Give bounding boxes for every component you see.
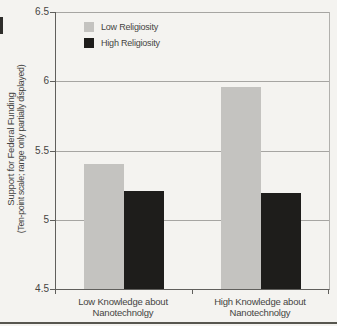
x-category-label-0: Low Knowledge aboutNanotechnolgy xyxy=(48,296,198,318)
bottom-rule xyxy=(0,322,337,324)
x-tick-mark-1 xyxy=(192,290,193,294)
gridline-5-5 xyxy=(56,151,329,152)
y-tick-label-5: 5 xyxy=(3,214,49,226)
x-category-label-line: High Knowledge about xyxy=(185,296,335,307)
legend-row-high-religiosity: High Religiosity xyxy=(84,38,160,48)
y-tick-label-4-5: 4.5 xyxy=(3,283,49,295)
x-category-label-line: Low Knowledge about xyxy=(48,296,198,307)
gridline-6 xyxy=(56,81,329,82)
x-category-label-1: High Knowledge aboutNanotechnolgy xyxy=(185,296,335,318)
legend-swatch-high-religiosity xyxy=(84,38,94,48)
legend: Low ReligiosityHigh Religiosity xyxy=(84,22,160,54)
y-tick-label-5-5: 5.5 xyxy=(3,145,49,157)
x-tick-mark-0 xyxy=(55,290,56,294)
bar-high-religiosity-1 xyxy=(261,193,301,289)
gridline-6-5 xyxy=(56,12,329,13)
x-category-label-line: Nanotechnolgy xyxy=(185,307,335,318)
x-category-label-line: Nanotechnolgy xyxy=(48,307,198,318)
scan-artifact-mark xyxy=(0,17,3,34)
legend-label-low-religiosity: Low Religiosity xyxy=(101,22,158,32)
x-tick-mark-2 xyxy=(328,290,329,294)
legend-row-low-religiosity: Low Religiosity xyxy=(84,22,160,32)
bar-low-religiosity-0 xyxy=(84,164,124,289)
bar-low-religiosity-1 xyxy=(221,87,261,289)
bar-chart-figure: Support for Federal Funding (Ten-point s… xyxy=(0,0,337,326)
legend-label-high-religiosity: High Religiosity xyxy=(101,38,160,48)
y-tick-label-6: 6 xyxy=(3,75,49,87)
legend-swatch-low-religiosity xyxy=(84,22,94,32)
bar-high-religiosity-0 xyxy=(124,191,164,289)
plot-area: Low ReligiosityHigh Religiosity xyxy=(55,12,330,290)
y-tick-label-6-5: 6.5 xyxy=(3,6,49,18)
